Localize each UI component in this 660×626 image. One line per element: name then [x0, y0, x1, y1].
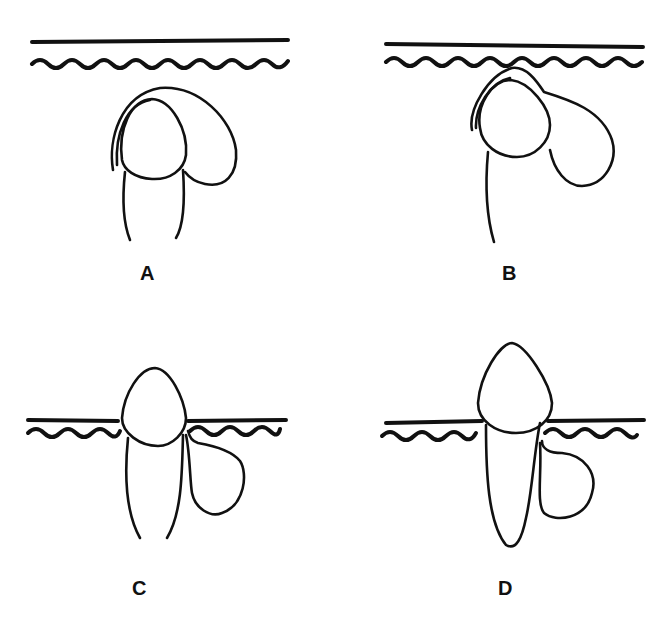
gingiva-wavy-left [382, 432, 476, 440]
surface-line-left [386, 421, 482, 423]
panel-label-d: D [498, 577, 512, 600]
surface-line-right [548, 420, 644, 421]
root-left [126, 438, 140, 538]
panel-a: A [0, 0, 330, 313]
tooth-crown [479, 80, 550, 157]
panel-b: B [330, 0, 660, 313]
surface-line [386, 44, 643, 47]
gingiva-wavy-line [386, 58, 642, 66]
panel-d: D [330, 313, 660, 626]
root-left [124, 172, 130, 240]
gingiva-wavy-right [545, 429, 637, 438]
panel-label-a: A [140, 262, 154, 285]
root-right [176, 170, 184, 238]
tooth-crown [121, 99, 186, 179]
cyst-sac [186, 431, 244, 514]
panel-a-drawing [0, 0, 330, 300]
surface-line-right [188, 420, 286, 421]
gingiva-wavy-right [190, 427, 280, 435]
gingiva-wavy-left [28, 429, 120, 437]
panel-c: C [0, 313, 330, 626]
root-left [486, 152, 494, 242]
root-right [167, 435, 183, 538]
panel-label-c: C [132, 577, 146, 600]
surface-line [32, 40, 288, 42]
surface-line-left [28, 420, 118, 421]
panel-b-drawing [330, 0, 660, 300]
gingiva-wavy-line [32, 60, 288, 68]
panel-label-b: B [502, 262, 516, 285]
follicle-sac [112, 88, 236, 185]
cyst-sac [540, 441, 594, 518]
follicle-sac [471, 68, 613, 186]
tooth-crown [478, 343, 552, 433]
root [486, 423, 540, 546]
tooth-crown [122, 368, 186, 446]
panel-d-drawing [330, 313, 660, 626]
follicle-inner [476, 78, 510, 128]
panel-c-drawing [0, 313, 330, 626]
